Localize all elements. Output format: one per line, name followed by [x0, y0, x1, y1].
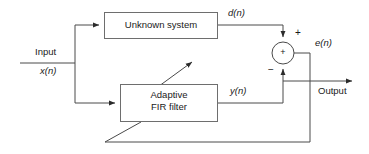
error-signal-label: e(n): [315, 38, 332, 49]
error-signal-line: [294, 53, 310, 81]
negative-sign-label: −: [268, 64, 274, 76]
feedback-diagonal-line: [105, 122, 141, 142]
unknown-system-label: Unknown system: [104, 19, 218, 31]
adaptive-fir-filter-label-line1: Adaptive: [120, 89, 218, 101]
filter-output-signal-label: y(n): [230, 86, 246, 97]
desired-signal-line: [218, 25, 283, 37]
desired-signal-label: d(n): [228, 8, 245, 19]
input-label: Input: [35, 47, 56, 58]
adaptive-filter-diagram: Unknown system Adaptive FIR filter Input…: [0, 0, 369, 154]
positive-sign-label: +: [295, 27, 301, 39]
input-signal-label: x(n): [40, 66, 56, 77]
output-label: Output: [318, 86, 347, 97]
summing-junction-symbol: +: [273, 48, 293, 57]
adaptive-fir-filter-label-line2: FIR filter: [120, 101, 218, 113]
